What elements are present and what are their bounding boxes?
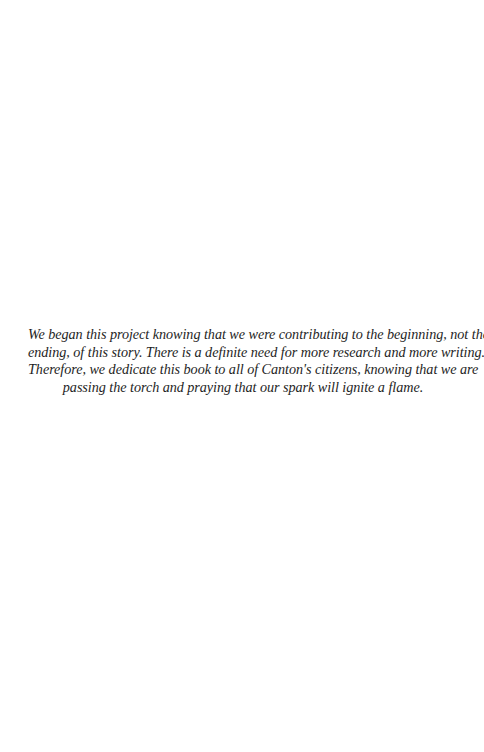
dedication-line-4: passing the torch and praying that our s… bbox=[28, 379, 458, 397]
book-page: We began this project knowing that we we… bbox=[0, 0, 484, 752]
dedication-paragraph: We began this project knowing that we we… bbox=[28, 326, 458, 396]
dedication-line-2: ending, of this story. There is a defini… bbox=[28, 344, 458, 362]
dedication-line-1: We began this project knowing that we we… bbox=[28, 326, 458, 344]
dedication-line-3: Therefore, we dedicate this book to all … bbox=[28, 361, 458, 379]
